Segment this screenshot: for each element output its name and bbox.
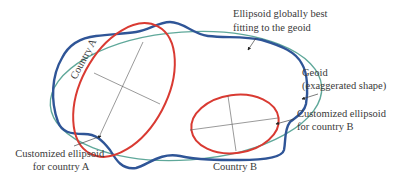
leader-arrow-global-ellipsoid: [248, 38, 256, 50]
ellipse-a-minor-axis: [94, 73, 160, 104]
ellipse-a-major-axis: [100, 42, 143, 135]
geoid-ellipsoid-diagram: Ellipsoid globally best fitting to the g…: [0, 0, 409, 179]
label-geoid: Geoid (exaggerated shape): [302, 67, 387, 92]
label-custom-ellipsoid-a: Customized ellipsoid for country A: [15, 148, 107, 172]
label-country-b: Country B: [213, 161, 257, 172]
custom-ellipsoid-b: [187, 89, 282, 159]
label-global-ellipsoid: Ellipsoid globally best fitting to the g…: [233, 8, 330, 33]
leader-arrow-geoid: [302, 94, 318, 99]
label-custom-ellipsoid-b: Customized ellipsoid for country B: [297, 108, 389, 132]
ellipse-b-minor-axis: [228, 96, 236, 151]
ellipse-b-major-axis: [190, 118, 278, 130]
